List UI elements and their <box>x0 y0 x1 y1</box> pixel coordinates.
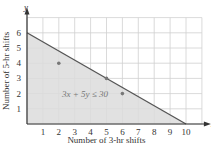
y-tick-label: 2 <box>17 89 22 99</box>
x-tick-label: 9 <box>168 127 173 137</box>
y-tick-label: 5 <box>17 43 22 53</box>
x-tick-label: 10 <box>182 127 192 137</box>
y-axis-letter: y <box>23 2 28 12</box>
x-tick-label: 8 <box>152 127 157 137</box>
y-tick-label: 4 <box>17 58 22 68</box>
x-tick-label: 1 <box>41 127 46 137</box>
x-axis-letter: x <box>210 119 211 129</box>
y-tick-label: 1 <box>17 104 22 114</box>
x-axis-label: Number of 3-hr shifts <box>67 135 146 144</box>
y-tick-label: 3 <box>17 73 22 83</box>
data-point <box>57 61 61 65</box>
inequality-label: 3x + 5y ≤ 30 <box>61 89 109 99</box>
x-tick-label: 2 <box>57 127 62 137</box>
y-axis-label: Number of 5-hr shifts <box>1 31 11 110</box>
y-tick-label: 6 <box>17 28 22 38</box>
x-axis-arrow-icon <box>204 122 211 127</box>
inequality-graph: 12345678910123456 3x + 5y ≤ 30 Number of… <box>0 0 211 144</box>
data-point <box>121 92 125 96</box>
data-point <box>105 77 109 81</box>
